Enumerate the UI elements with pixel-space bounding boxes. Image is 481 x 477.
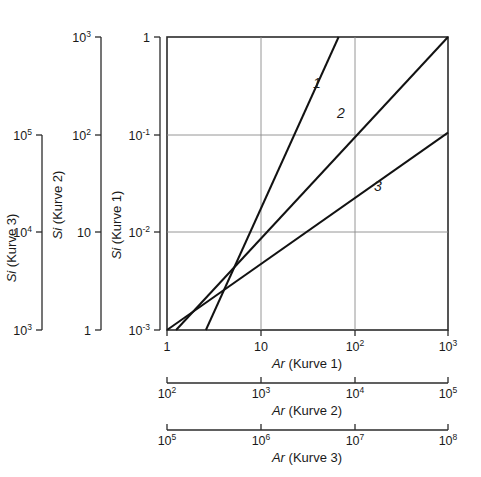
y-axis-2-title: Si (Kurve 2) (50, 171, 65, 240)
y-axis-3-ticklabel-2: 105 (13, 127, 32, 143)
curve-3-line (167, 133, 448, 330)
x-axis-1-ticklabel-1: 10 (254, 340, 268, 354)
gridlines (167, 37, 448, 330)
curve-label-2: 2 (336, 105, 345, 121)
y-axis-1-ticklabel-0: 10-3 (129, 322, 151, 338)
x-axis-3-ticklabel-0: 105 (158, 432, 177, 448)
x-axis-1-ticklabel-2: 102 (346, 338, 365, 354)
x-axis-3-ticklabel-3: 108 (439, 432, 458, 448)
x-axis-2-ticklabel-0: 102 (158, 385, 177, 401)
x-axis-3-title: Ar (Kurve 3) (271, 450, 342, 465)
y-axis-1-ticklabel-2: 10-1 (129, 127, 151, 143)
x-axis-2-ticklabel-2: 104 (346, 385, 365, 401)
y-axis-2-ticklabel-1: 10 (77, 226, 91, 240)
x-axis-3-ticklabel-2: 107 (346, 432, 365, 448)
y-axis-2: 103 102 10 1 Si (Kurve 2) (50, 29, 101, 338)
y-axis-3-ticklabel-0: 103 (13, 322, 32, 338)
x-axis-2-ticklabel-1: 103 (252, 385, 271, 401)
y-axis-2-ticklabel-3: 103 (72, 29, 91, 45)
x-axis-3: 105 106 107 108 Ar (Kurve 3) (158, 424, 458, 465)
x-axis-1-ticklabel-3: 103 (439, 338, 458, 354)
y-axis-1-ticklabel-3: 1 (143, 31, 150, 45)
plot-frame (167, 37, 448, 330)
x-axis-2: 102 103 104 105 Ar (Kurve 2) (158, 377, 458, 418)
x-axis-2-title: Ar (Kurve 2) (271, 403, 342, 418)
x-axis-1-ticklabel-0: 1 (164, 340, 171, 354)
curve-label-1: 1 (313, 75, 321, 91)
log-log-chart-svg: 1 2 3 1 10-1 10-2 10-3 Si (Kurve 1) (0, 0, 481, 477)
y-axis-2-ticklabel-2: 102 (72, 127, 91, 143)
y-axis-1: 1 10-1 10-2 10-3 Si (Kurve 1) (109, 31, 160, 338)
x-axis-1-title: Ar (Kurve 1) (271, 356, 342, 371)
y-axis-1-title: Si (Kurve 1) (109, 191, 124, 260)
x-axis-2-ticklabel-3: 105 (439, 385, 458, 401)
chart-figure: 1 2 3 1 10-1 10-2 10-3 Si (Kurve 1) (0, 0, 481, 477)
curve-label-3: 3 (374, 178, 382, 194)
y-axis-3-title: Si (Kurve 3) (4, 214, 19, 283)
y-axis-3: 105 104 103 Si (Kurve 3) (4, 127, 42, 338)
y-axis-2-ticklabel-0: 1 (84, 324, 91, 338)
y-axis-1-ticklabel-1: 10-2 (129, 224, 151, 240)
x-axis-3-ticklabel-1: 106 (252, 432, 271, 448)
x-axis-1: 1 10 102 103 Ar (Kurve 1) (164, 330, 458, 371)
